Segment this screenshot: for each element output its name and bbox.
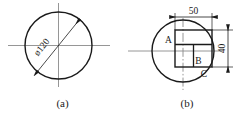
label-c: C — [201, 69, 207, 79]
figure-panel-b: A B C 50 40 (b) — [125, 0, 249, 119]
diameter-label: ø120 — [32, 36, 52, 57]
width-dimension-label: 50 — [189, 6, 199, 16]
figure-sheet: ø120 (a) — [0, 0, 249, 119]
caption-b: (b) — [125, 98, 249, 109]
height-dimension-label: 40 — [217, 44, 227, 54]
figure-panel-a: ø120 (a) — [0, 0, 125, 119]
caption-a: (a) — [0, 98, 125, 109]
label-a: A — [165, 35, 172, 45]
label-b: B — [195, 56, 201, 66]
